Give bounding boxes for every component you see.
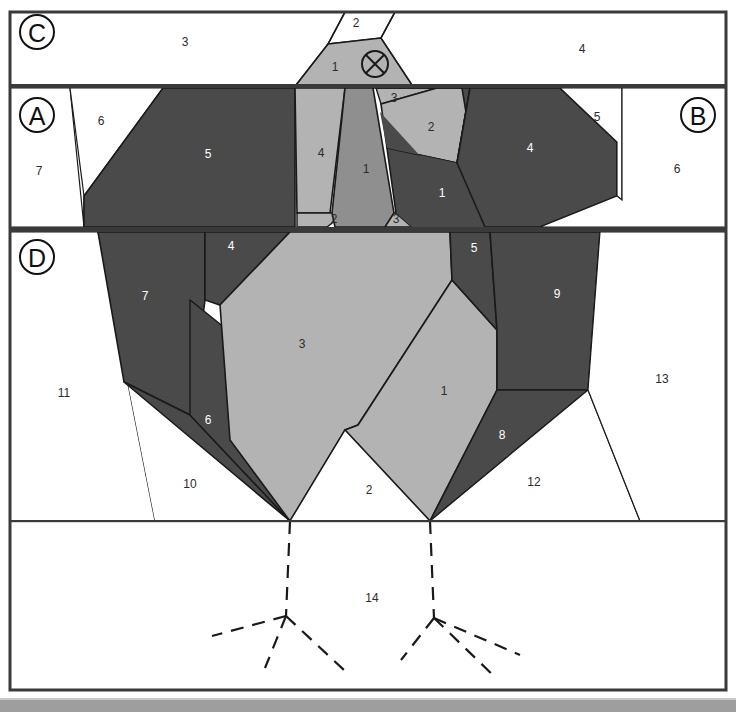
region-label-panel-a-2-5: 2 bbox=[331, 212, 338, 226]
region-label-panel-a-2-8: 2 bbox=[428, 120, 435, 134]
region-label-panel-d-1-7: 1 bbox=[441, 384, 448, 398]
page-bottom-band bbox=[0, 700, 736, 712]
region-label-panel-a-4-10: 4 bbox=[527, 141, 534, 155]
panel-badge-b: B bbox=[681, 98, 715, 132]
region-label-panel-a-6-12: 6 bbox=[674, 162, 681, 176]
panel-bottom-background bbox=[10, 521, 726, 690]
region-label-panel-a-7-1: 7 bbox=[36, 164, 43, 178]
region-label-panel-d-13-12: 13 bbox=[655, 372, 669, 386]
region-label-panel-c-2-2: 2 bbox=[353, 16, 360, 30]
panel-badge-a-label: A bbox=[29, 102, 46, 130]
technical-diagram: C A B D 34216754123321456743611102159812… bbox=[0, 0, 736, 712]
region-label-panel-c-4-1: 4 bbox=[579, 42, 586, 56]
region-label-panel-a-4-3: 4 bbox=[318, 146, 325, 160]
panel-badge-d-label: D bbox=[28, 244, 46, 272]
region-label-panel-d-10-5: 10 bbox=[183, 477, 197, 491]
panel-badge-c-label: C bbox=[28, 19, 46, 47]
region-label-panel-d-6-3: 6 bbox=[205, 413, 212, 427]
region-label-panel-d-9-9: 9 bbox=[554, 287, 561, 301]
region-label-panel-a-3-6: 3 bbox=[393, 212, 400, 226]
region-label-panel-d-7-0: 7 bbox=[142, 289, 149, 303]
separator-d-bottom bbox=[10, 520, 726, 522]
figure-root: C A B D 34216754123321456743611102159812… bbox=[0, 0, 736, 712]
region-label-panel-d-2-6: 2 bbox=[366, 483, 373, 497]
region-label-panel-c-3-0: 3 bbox=[182, 35, 189, 49]
region-label-panel-c-1-3: 1 bbox=[332, 60, 339, 74]
panel-badge-c: C bbox=[20, 15, 54, 49]
separator-a-d bbox=[10, 227, 726, 232]
panel-badge-a: A bbox=[20, 98, 54, 132]
region-label-panel-a-1-9: 1 bbox=[439, 186, 446, 200]
panel-badge-d: D bbox=[20, 240, 54, 274]
region-label-panel-a-1-4: 1 bbox=[363, 162, 370, 176]
region-label-panel-d-4-1: 4 bbox=[228, 239, 235, 253]
region-d-9 bbox=[490, 232, 600, 390]
region-label-panel-bottom-14-0: 14 bbox=[365, 591, 379, 605]
region-label-panel-a-5-11: 5 bbox=[594, 110, 601, 124]
region-label-panel-d-8-10: 8 bbox=[499, 428, 506, 442]
region-label-panel-a-3-7: 3 bbox=[391, 91, 398, 105]
panel-bottom-roots bbox=[10, 521, 726, 690]
page-bottom-band-highlight bbox=[0, 698, 736, 700]
separator-c-a bbox=[10, 84, 726, 88]
region-label-panel-d-5-8: 5 bbox=[471, 241, 478, 255]
region-label-panel-a-6-0: 6 bbox=[98, 114, 105, 128]
region-label-panel-d-12-11: 12 bbox=[527, 475, 541, 489]
panel-badge-b-label: B bbox=[690, 102, 707, 130]
region-label-panel-a-5-2: 5 bbox=[205, 147, 212, 161]
circled-cross-marker bbox=[362, 51, 388, 77]
panel-a bbox=[10, 88, 726, 227]
region-label-panel-d-3-2: 3 bbox=[299, 337, 306, 351]
panel-d bbox=[10, 232, 726, 521]
region-label-panel-d-11-4: 11 bbox=[58, 386, 71, 400]
